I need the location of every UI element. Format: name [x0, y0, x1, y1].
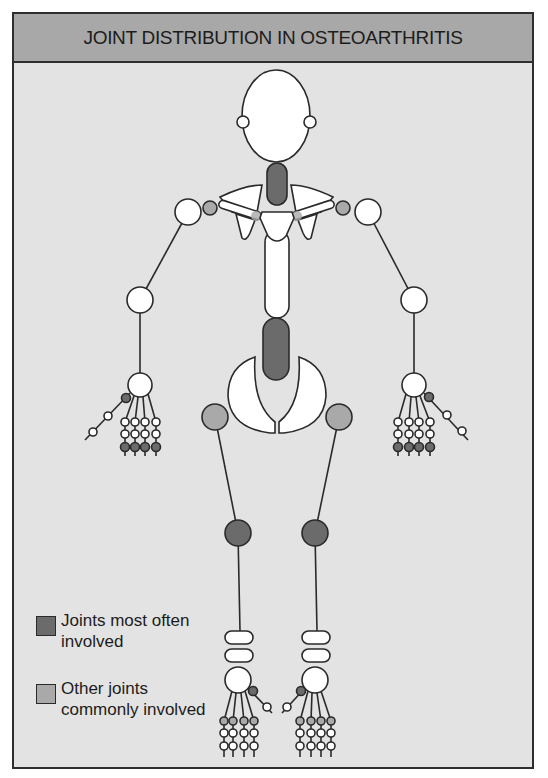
- hip-right: [326, 404, 352, 430]
- elbow-left: [127, 287, 153, 313]
- big-toe-mtp-right: [297, 687, 306, 696]
- legend-item-commonly: Other joints commonly involved: [36, 678, 221, 720]
- ear-left: [237, 116, 249, 128]
- foot-left: [220, 667, 272, 757]
- legend-label: Joints most often involved: [61, 610, 201, 652]
- ankle-bones: [225, 631, 330, 662]
- hip-left: [202, 404, 228, 430]
- big-toe-mtp-left: [249, 687, 258, 696]
- light-swatch-icon: [36, 684, 56, 704]
- cervical-spine-joint: [267, 163, 287, 205]
- hand-right: [394, 373, 469, 456]
- lumbar-spine-joint: [263, 318, 289, 380]
- sternum: [260, 212, 294, 318]
- wrist-left: [128, 373, 152, 397]
- knee-right: [302, 520, 328, 546]
- ankle-left: [225, 667, 251, 693]
- elbow-right: [401, 287, 427, 313]
- acromioclavicular-right: [336, 201, 350, 215]
- head: [237, 70, 316, 162]
- foot-right: [282, 667, 335, 757]
- knee-left: [225, 520, 251, 546]
- wrist-right: [402, 373, 426, 397]
- ear-right: [304, 116, 316, 128]
- shoulder-left: [175, 199, 201, 225]
- thumb-base-left: [122, 394, 131, 403]
- legend-item-most-often: Joints most often involved: [36, 610, 201, 652]
- thumb-base-right: [425, 393, 434, 402]
- dip-joint: [121, 443, 130, 452]
- hand-left: [85, 373, 161, 456]
- shoulder-right: [355, 199, 381, 225]
- legend-label: Other joints commonly involved: [61, 678, 221, 720]
- dark-swatch-icon: [36, 616, 56, 636]
- acromioclavicular-left: [203, 201, 217, 215]
- skeleton-figure: [0, 0, 548, 778]
